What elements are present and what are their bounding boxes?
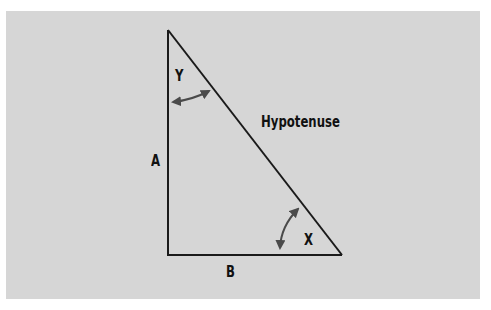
hypotenuse-line (168, 30, 342, 255)
angle-x-label: X (304, 231, 313, 249)
triangle (167, 30, 342, 255)
angle-x-arrow-icon (280, 209, 298, 248)
right-triangle-diagram (0, 0, 491, 310)
caption-cutoff (8, 303, 478, 310)
angle-y-label: Y (175, 67, 183, 85)
hypotenuse-label: Hypotenuse (261, 113, 340, 131)
side-b-label: B (226, 263, 235, 281)
side-a-label: A (151, 152, 160, 170)
angle-y-arrow-icon (173, 91, 209, 102)
